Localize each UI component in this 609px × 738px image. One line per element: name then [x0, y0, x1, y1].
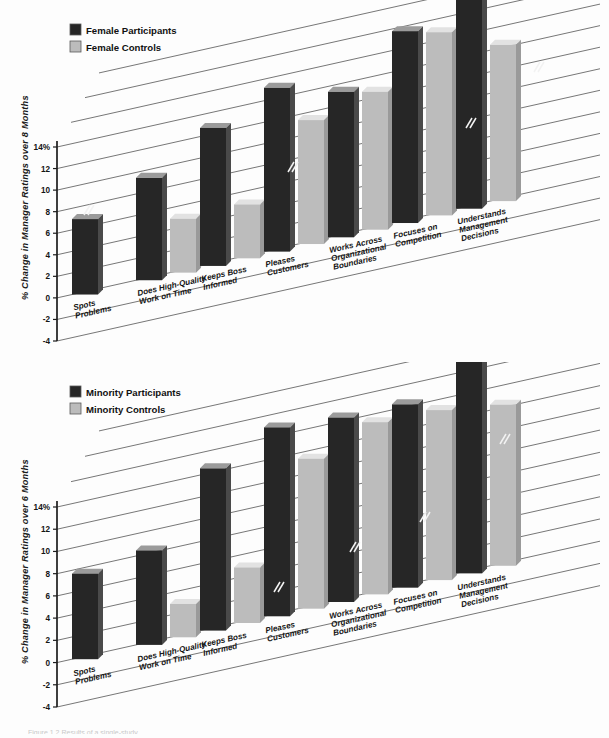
bar-group: [456, 362, 521, 573]
bar-side-dark-0: [98, 569, 103, 660]
category-label-6: UnderstandsManagementDecisions: [456, 207, 510, 243]
category-label-0: SpotsProblems: [72, 295, 112, 320]
bar-side-dark-5: [418, 399, 423, 587]
bar-group: [136, 545, 201, 644]
chart-svg-female: 14%121086420-2-4% Change in Manager Rati…: [0, 0, 609, 362]
bar-dark-0: [72, 574, 98, 660]
y-tick-label-0: 0: [45, 659, 50, 668]
figure-page: 14%121086420-2-4% Change in Manager Rati…: [0, 0, 609, 738]
bar-light-1: [170, 219, 196, 273]
bar-side-dark-6: [482, 362, 487, 573]
category-label-0: SpotsProblems: [72, 661, 112, 686]
y-tick-label--4: -4: [43, 703, 51, 712]
bar-light-1: [170, 604, 196, 637]
bar-top-light-3: [298, 454, 329, 459]
bar-top-light-4: [362, 417, 393, 422]
bar-group: [72, 214, 103, 294]
bar-top-light-2: [234, 562, 265, 567]
chart-panel-minority: 14%121086420-2-4% Change in Manager Rati…: [0, 362, 609, 720]
bar-top-dark-3: [264, 422, 295, 427]
y-tick-label-8: 8: [45, 208, 50, 217]
y-tick-label-12: 12: [41, 525, 51, 534]
bar-dark-2: [200, 468, 226, 630]
figure-caption-partial: Figure 1.2 Results of a single-study....…: [28, 729, 588, 734]
bar-dark-4: [328, 92, 354, 238]
bar-top-dark-5: [392, 399, 423, 404]
y-axis-title: % Change in Manager Ratings over 8 Month…: [20, 95, 30, 300]
bar-top-dark-2: [200, 123, 231, 128]
y-tick-label-10: 10: [41, 547, 51, 556]
y-tick-label-8: 8: [45, 570, 50, 579]
bar-dark-0: [72, 219, 98, 294]
gridline-upper-20: [99, 0, 600, 73]
bar-dark-3: [264, 88, 290, 252]
y-axis-title: % Change in Manager Ratings over 6 Month…: [20, 459, 30, 664]
bar-top-light-3: [298, 115, 329, 120]
bar-light-4: [362, 92, 388, 230]
bar-top-dark-2: [200, 463, 231, 468]
bar-group: [392, 26, 457, 223]
bar-group: [392, 399, 457, 587]
bar-group: [200, 123, 265, 266]
y-tick-label-6: 6: [45, 592, 50, 601]
legend-label-controls: Female Controls: [86, 42, 161, 53]
bar-side-dark-2: [226, 123, 231, 266]
bar-side-dark-5: [418, 26, 423, 223]
y-tick-label-12: 12: [41, 165, 51, 174]
bar-light-5: [426, 410, 452, 580]
legend-swatch-participants: [70, 386, 81, 397]
bar-dark-1: [136, 550, 162, 644]
legend-swatch-controls: [70, 403, 81, 414]
y-tick-label-2: 2: [45, 272, 50, 281]
bar-side-dark-1: [162, 545, 167, 644]
legend-label-participants: Minority Participants: [86, 387, 181, 398]
bar-side-dark-0: [98, 214, 103, 294]
y-tick-label--2: -2: [43, 315, 51, 324]
y-tick-label-4: 4: [45, 614, 50, 623]
y-tick-label--2: -2: [43, 681, 51, 690]
bar-side-dark-6: [482, 0, 487, 209]
category-label-6: UnderstandsManagementDecisions: [456, 573, 510, 609]
bar-group: [72, 569, 103, 660]
bar-dark-2: [200, 128, 226, 266]
bar-group: [200, 463, 265, 630]
bar-side-dark-1: [162, 173, 167, 280]
bar-dark-5: [392, 31, 418, 223]
category-label-5: Focuses onCompetition: [392, 588, 442, 615]
bar-dark-4: [328, 418, 354, 602]
bar-side-dark-4: [354, 87, 359, 238]
bar-light-3: [298, 120, 324, 244]
bar-light-3: [298, 459, 324, 609]
bar-group: [264, 83, 329, 252]
legend-swatch-controls: [70, 41, 81, 52]
category-label-4: Works AcrossOrganizationalBoundaries: [328, 600, 389, 638]
bar-top-light-1: [170, 599, 201, 604]
bar-dark-6: [456, 362, 482, 573]
bar-top-dark-0: [72, 214, 103, 219]
y-tick-label-0: 0: [45, 294, 50, 303]
bar-light-2: [234, 204, 260, 258]
y-axis: 14%121086420-2-4: [34, 501, 57, 712]
bar-top-dark-4: [328, 413, 359, 418]
bar-top-light-2: [234, 199, 265, 204]
legend-swatch-participants: [70, 24, 81, 35]
legend: Female ParticipantsFemale Controls: [70, 24, 177, 53]
bar-light-5: [426, 32, 452, 215]
bar-side-dark-2: [226, 463, 231, 630]
bar-group: [328, 87, 393, 238]
bar-light-6: [490, 405, 516, 566]
bar-top-light-4: [362, 87, 393, 92]
y-axis: 14%121086420-2-4: [34, 141, 57, 346]
bar-dark-5: [392, 404, 418, 587]
bar-top-dark-5: [392, 26, 423, 31]
bar-top-dark-1: [136, 173, 167, 178]
bar-top-light-5: [426, 27, 457, 32]
bar-side-dark-3: [290, 422, 295, 616]
bar-side-light-6: [516, 40, 521, 201]
chart-svg-minority: 14%121086420-2-4% Change in Manager Rati…: [0, 362, 609, 720]
y-tick-label-14: 14%: [34, 143, 51, 152]
legend-label-participants: Female Participants: [86, 25, 177, 36]
bar-light-2: [234, 567, 260, 623]
bar-light-6: [490, 45, 516, 201]
y-tick-label-4: 4: [45, 251, 50, 260]
